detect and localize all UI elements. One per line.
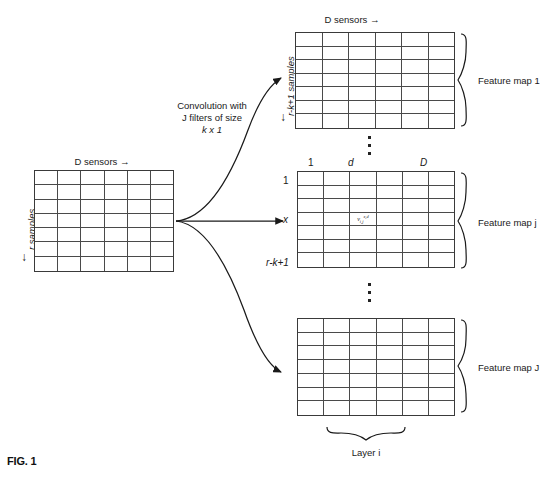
input-data-grid bbox=[34, 170, 174, 272]
grid-row bbox=[35, 257, 173, 271]
grid-cell bbox=[81, 228, 104, 242]
grid-row bbox=[298, 319, 454, 333]
featuremap-j-row-label-x: x bbox=[283, 214, 288, 227]
grid-row bbox=[296, 33, 454, 47]
featuremap-j-col-label-1: 1 bbox=[308, 157, 314, 170]
ellipsis-dot bbox=[368, 136, 371, 139]
grid-cell bbox=[376, 101, 403, 115]
grid-cell bbox=[376, 74, 403, 88]
grid-cell bbox=[350, 401, 376, 415]
grid-cell bbox=[402, 101, 429, 115]
grid-cell bbox=[35, 171, 58, 185]
grid-cell bbox=[58, 242, 81, 256]
brace-layer-i bbox=[327, 427, 405, 440]
grid-cell bbox=[377, 226, 403, 240]
grid-cell bbox=[128, 242, 151, 256]
grid-row bbox=[298, 374, 454, 388]
grid-cell bbox=[35, 185, 58, 199]
grid-cell bbox=[429, 101, 455, 115]
grid-cell bbox=[429, 33, 455, 47]
grid-row bbox=[296, 60, 454, 74]
featuremap1-left-arrow-glyph: ↓ bbox=[280, 110, 286, 125]
brace-featuremap-j bbox=[458, 173, 466, 268]
grid-cell bbox=[402, 74, 429, 88]
grid-cell bbox=[429, 74, 455, 88]
grid-cell bbox=[377, 199, 403, 213]
grid-cell bbox=[58, 185, 81, 199]
grid-cell bbox=[429, 213, 454, 227]
grid-cell bbox=[429, 319, 454, 333]
grid-cell bbox=[350, 388, 376, 402]
grid-cell bbox=[349, 74, 376, 88]
grid-cell bbox=[324, 226, 350, 240]
grid-cell bbox=[349, 101, 376, 115]
grid-cell bbox=[402, 47, 429, 61]
grid-row bbox=[296, 87, 454, 101]
grid-row bbox=[35, 242, 173, 256]
grid-cell bbox=[296, 114, 323, 128]
grid-cell bbox=[324, 333, 350, 347]
brace-featuremap-J bbox=[458, 320, 466, 412]
grid-cell bbox=[350, 226, 376, 240]
grid-row bbox=[298, 226, 454, 240]
grid-cell bbox=[403, 360, 429, 374]
convolution-label-line3: k x 1 bbox=[202, 124, 222, 136]
grid-cell bbox=[35, 214, 58, 228]
grid-row bbox=[298, 346, 454, 360]
grid-cell bbox=[105, 171, 128, 185]
grid-cell bbox=[298, 186, 324, 200]
grid-cell bbox=[151, 214, 173, 228]
grid-cell bbox=[324, 388, 350, 402]
grid-cell bbox=[323, 74, 350, 88]
grid-cell bbox=[35, 242, 58, 256]
grid-cell bbox=[324, 213, 350, 227]
grid-row bbox=[298, 388, 454, 402]
convolution-label-line1: Convolution with bbox=[177, 100, 247, 112]
grid-cell bbox=[298, 346, 324, 360]
featuremap-J-label: Feature map J bbox=[478, 362, 539, 374]
grid-cell bbox=[324, 253, 350, 267]
grid-cell bbox=[376, 60, 403, 74]
grid-row bbox=[298, 172, 454, 186]
grid-cell bbox=[429, 253, 454, 267]
grid-cell bbox=[377, 240, 403, 254]
connector-arrow-down bbox=[176, 221, 281, 372]
grid-cell bbox=[128, 257, 151, 271]
grid-cell bbox=[403, 186, 429, 200]
grid-cell bbox=[323, 87, 350, 101]
grid-cell bbox=[128, 214, 151, 228]
grid-cell bbox=[349, 47, 376, 61]
grid-row bbox=[296, 114, 454, 128]
grid-row bbox=[298, 401, 454, 415]
grid-cell bbox=[377, 253, 403, 267]
grid-cell bbox=[377, 172, 403, 186]
grid-cell bbox=[403, 388, 429, 402]
grid-cell bbox=[350, 333, 376, 347]
grid-cell bbox=[403, 213, 429, 227]
grid-cell bbox=[298, 374, 324, 388]
grid-row bbox=[298, 240, 454, 254]
grid-cell bbox=[151, 200, 173, 214]
ellipsis-dot bbox=[368, 299, 371, 302]
grid-cell bbox=[377, 333, 403, 347]
grid-cell bbox=[81, 257, 104, 271]
grid-cell bbox=[323, 33, 350, 47]
grid-cell bbox=[377, 401, 403, 415]
grid-cell bbox=[35, 200, 58, 214]
grid-row bbox=[298, 333, 454, 347]
grid-cell bbox=[323, 47, 350, 61]
grid-cell bbox=[429, 374, 454, 388]
grid-cell bbox=[349, 114, 376, 128]
grid-row bbox=[298, 199, 454, 213]
grid-cell bbox=[429, 186, 454, 200]
grid-cell bbox=[429, 346, 454, 360]
grid-cell bbox=[350, 172, 376, 186]
grid-cell bbox=[403, 199, 429, 213]
grid-cell bbox=[298, 253, 324, 267]
grid-cell bbox=[377, 213, 403, 227]
grid-cell bbox=[105, 257, 128, 271]
grid-cell bbox=[429, 172, 454, 186]
grid-cell bbox=[296, 33, 323, 47]
grid-cell bbox=[429, 240, 454, 254]
grid-cell bbox=[377, 374, 403, 388]
